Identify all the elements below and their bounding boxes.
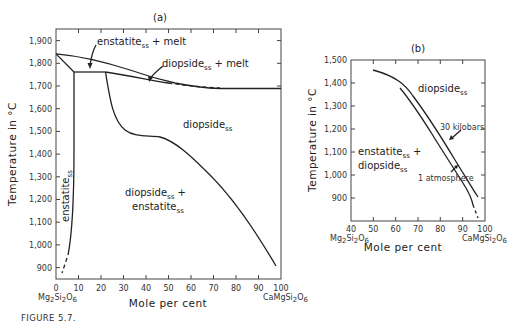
xtick: 50 [368,225,378,234]
xtick: 50 [163,284,173,293]
panel-b-xlabel: Mole per cent [364,241,442,253]
label-enstatite-diopside-1: enstatitess + [358,146,421,160]
ytick: 900 [37,264,52,273]
ytick: 1,000 [29,241,52,250]
ytick: 1,100 [324,148,347,157]
curve-1-atmosphere-dashed [473,205,478,218]
panel-a-label: (a) [153,12,167,23]
panel-a-x-left-end: Mg2Si2O6 [38,293,78,304]
panel-a-x-right-end: CaMgSi2O6 [263,293,309,304]
ytick: 1,500 [29,127,52,136]
figure-caption: FIGURE 5.7. [21,313,76,323]
panel-b-x-right-end: CaMgSi2O6 [462,234,508,245]
xtick: 80 [231,284,241,293]
diopside-solidus-dashed [168,83,220,88]
panel-b-field-labels: diopsidess enstatitess + diopsidess 30 k… [358,83,484,183]
ytick: 1,400 [324,79,347,88]
panel-b-label: (b) [411,43,425,54]
label-30-kilobars: 30 kilobars [440,123,484,132]
ytick: 1,700 [29,82,52,91]
xtick: 40 [346,225,356,234]
arrow-head [88,63,93,69]
label-1-atmosphere: 1 atmosphere [418,174,474,183]
xtick: 100 [477,225,492,234]
ytick: 900 [332,194,347,203]
label-diopside-ss-b: diopsidess [418,83,468,97]
xtick: 90 [458,225,468,234]
label-diopside-melt: diopsidess + melt [162,58,249,72]
arrow-enstatite-melt [90,45,96,66]
panel-a: (a) 900 1,000 1,100 1,200 1,300 1,400 1,… [6,12,309,309]
ytick: 1,200 [29,195,52,204]
ytick: 1,200 [324,125,347,134]
label-enstatite-diopside-2: diopsidess [358,160,408,174]
ytick: 1,300 [29,173,52,182]
panel-a-xlabel: Mole per cent [129,297,207,309]
xtick: 70 [208,284,218,293]
xtick: 90 [253,284,263,293]
ytick: 1,800 [29,59,52,68]
xtick: 100 [273,284,288,293]
label-diopside-enstatite-2: enstatitess [132,201,184,215]
xtick: 40 [141,284,151,293]
panel-a-curves [56,45,281,273]
ytick: 1,400 [29,150,52,159]
xtick: 30 [118,284,128,293]
ytick: 1,100 [29,218,52,227]
ytick: 1,300 [324,102,347,111]
xtick: 0 [53,284,58,293]
xtick: 60 [391,225,401,234]
diopside-solidus [106,72,169,83]
ytick: 1,900 [29,37,52,46]
xtick: 10 [73,284,83,293]
enstatite-solvus-dashed [62,258,67,273]
xtick: 60 [186,284,196,293]
panel-a-xaxis: 0 10 20 30 40 50 60 70 80 90 100 Mg2Si2O… [38,29,309,309]
ytick: 1,500 [324,56,347,65]
xtick: 20 [96,284,106,293]
xtick: 70 [413,225,423,234]
ytick: 1,000 [324,171,347,180]
diopside-solvus [106,72,277,266]
label-diopside-ss: diopsidess [183,119,233,133]
label-enstatite-melt: enstatitess + melt [97,36,186,50]
label-diopside-enstatite-1: diopsidess + [125,187,186,201]
panel-b: (b) 900 1,000 1,100 1,200 1,300 1,400 1,… [306,43,508,253]
enstatite-solvus [68,72,74,255]
panel-a-yaxis: 900 1,000 1,100 1,200 1,300 1,400 1,500 … [6,37,281,273]
figure-canvas: (a) 900 1,000 1,100 1,200 1,300 1,400 1,… [0,0,521,333]
panel-a-ylabel: Temperature in °C [6,102,18,207]
ytick: 1,600 [29,105,52,114]
xtick: 80 [435,225,445,234]
panel-b-ylabel: Temperature in °C [306,88,318,193]
